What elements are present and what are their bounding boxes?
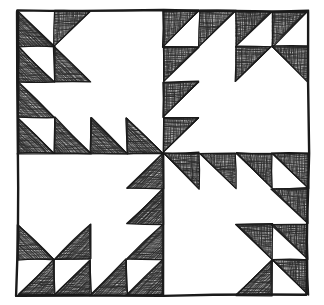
hatch-stroke xyxy=(277,229,308,230)
hatch-stroke xyxy=(239,226,272,227)
quilt-block-drawing xyxy=(0,0,324,305)
hatch-stroke xyxy=(236,14,269,15)
hatch-stroke xyxy=(249,167,272,168)
quilt-block-figure xyxy=(0,0,324,305)
hatch-stroke xyxy=(176,166,200,167)
hatch-stroke xyxy=(163,134,183,135)
